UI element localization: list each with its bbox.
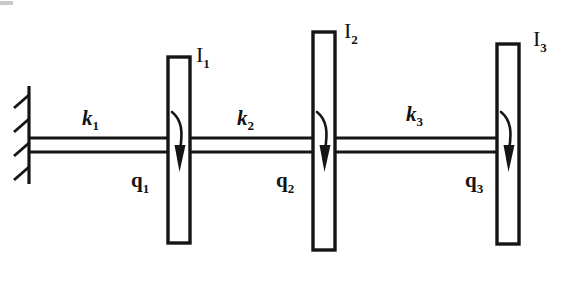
figure-canvas	[0, 0, 574, 283]
coordinate-label-q2: q2	[276, 170, 294, 191]
torsional-system-figure: I1 I2 I3 k1 k2 k3 q1 q2 q3	[0, 0, 574, 283]
coordinate-label-q1: q1	[131, 170, 149, 191]
coordinate-label-q3-base: q	[465, 168, 477, 192]
disk-I1	[168, 57, 190, 243]
coordinate-label-q1-base: q	[131, 168, 143, 192]
shaft-segment-k2	[188, 138, 315, 152]
stiffness-label-k3: k3	[406, 104, 423, 125]
disk-I3-body	[497, 44, 519, 244]
coordinate-label-q2-base: q	[276, 168, 288, 192]
shaft-segment-k3	[334, 138, 498, 152]
inertia-label-I1: I1	[196, 44, 210, 66]
stiffness-label-k2-base: k	[237, 106, 248, 130]
wall-hatch-1	[14, 95, 29, 108]
stiffness-label-k1-sub: 1	[93, 118, 100, 133]
stiffness-label-k2: k2	[237, 108, 254, 129]
stiffness-label-k3-base: k	[406, 102, 417, 126]
inertia-label-I2: I2	[344, 20, 358, 42]
disk-I3	[497, 44, 519, 244]
inertia-label-I3: I3	[533, 28, 547, 50]
shaft-segment-k1	[29, 138, 170, 152]
coordinate-label-q2-sub: 2	[288, 181, 295, 196]
inertia-label-I2-sub: 2	[351, 32, 358, 47]
inertia-label-I3-sub: 3	[540, 40, 547, 55]
scan-artifact	[0, 1, 13, 5]
disk-I2-body	[313, 32, 335, 250]
inertia-label-I1-sub: 1	[203, 56, 210, 71]
fixed-wall-support	[14, 86, 29, 184]
stiffness-label-k1: k1	[82, 108, 99, 129]
disk-I2	[313, 32, 335, 250]
wall-hatch-4	[14, 167, 29, 180]
stiffness-label-k1-base: k	[82, 106, 93, 130]
coordinate-label-q3: q3	[465, 170, 483, 191]
stiffness-label-k2-sub: 2	[248, 118, 255, 133]
wall-hatch-2	[14, 119, 29, 132]
coordinate-label-q1-sub: 1	[143, 181, 150, 196]
wall-hatch-3	[14, 143, 29, 156]
coordinate-label-q3-sub: 3	[477, 181, 484, 196]
stiffness-label-k3-sub: 3	[417, 114, 424, 129]
